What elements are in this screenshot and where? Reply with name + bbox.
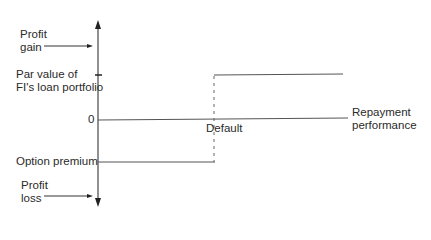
repayment-performance-label: Repaymentperformance: [352, 106, 417, 132]
option-premium-label: Option premium: [16, 155, 98, 168]
profit-gain-label: Profitgain: [20, 28, 47, 54]
y-axis-down-arrow: [95, 198, 101, 207]
zero-label: 0: [88, 113, 94, 126]
default-label: Default: [206, 122, 242, 135]
par-value-line: [214, 74, 343, 75]
y-axis-up-arrow: [95, 20, 101, 29]
par-value-label: Par value ofFI's loan portfolio: [16, 68, 103, 94]
x-axis: [98, 118, 348, 120]
profit-loss-label: Profitloss: [21, 179, 48, 205]
